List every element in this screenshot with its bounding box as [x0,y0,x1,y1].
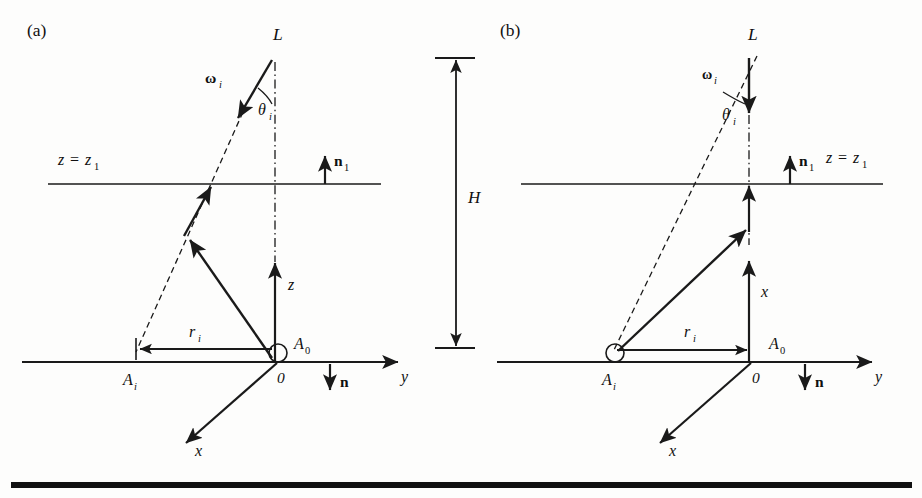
svg-text:n: n [799,152,808,169]
svg-text:=: = [838,149,847,166]
panel-a-plane-normal-label: n 1 [334,152,349,173]
svg-text:i: i [219,79,222,90]
panel-b-radial-label: r i [684,323,696,344]
svg-text:r: r [189,323,196,340]
panel-a-origin-point-label: A 0 [293,335,310,356]
panel-a-source-label: L [272,24,283,44]
svg-text:i: i [733,116,736,127]
panel-b-source-label: L [747,24,758,44]
panel-b-ray-segment [618,230,746,351]
panel-b-incident-direction-label: ω i [702,67,717,86]
svg-text:ω: ω [205,69,216,86]
panel-b-virtual-ray-dashed [613,56,757,352]
panel-b-horizontal-axis-label: y [873,368,883,386]
panel-a-vertical-axis-label: z [287,276,295,293]
svg-text:A: A [601,371,612,388]
svg-text:1: 1 [94,161,99,172]
panel-b-vertical-axis-label: x [760,283,768,300]
svg-text:z: z [825,149,833,166]
panel-b-plane-normal-label: n 1 [799,152,814,173]
panel-a-ray-segment-upper [184,187,211,236]
svg-text:i: i [269,111,272,122]
svg-text:θ: θ [258,101,266,118]
panel-b-surface-normal-label: n [815,373,824,390]
panel-a-depth-axis-label: x [194,442,202,459]
panel-a-label: (a) [27,20,47,40]
svg-text:i: i [714,75,717,86]
panel-a-x-axis [186,363,277,443]
panel-a-origin-label: 0 [277,369,285,386]
svg-text:r: r [684,323,691,340]
panel-a-plane-label: z = z 1 [57,151,99,172]
panel-a-group: (a) L ω i θ i z = z 1 n 1 z r [22,20,409,459]
figure-canvas: (a) L ω i θ i z = z 1 n 1 z r [0,0,922,498]
panel-a-incident-ray-arrow [238,60,272,118]
svg-text:i: i [613,381,616,392]
svg-text:0: 0 [780,345,785,356]
panel-a-radial-label: r i [189,323,201,344]
svg-text:θ: θ [722,106,730,123]
svg-text:i: i [693,333,696,344]
panel-a-ray-segment-lower [190,240,272,358]
svg-text:i: i [134,381,137,392]
figure-root: (a) L ω i θ i z = z 1 n 1 z r [0,0,922,498]
panel-b-image-point-label: A i [601,371,616,392]
height-dimension-group: H [435,58,482,348]
panel-a-angle-label: θ i [258,101,272,122]
panel-a-incident-direction-label: ω i [205,69,222,90]
svg-text:1: 1 [344,162,349,173]
svg-text:A: A [293,335,304,352]
svg-text:0: 0 [305,345,310,356]
svg-text:A: A [122,371,133,388]
svg-text:1: 1 [809,162,814,173]
bottom-rule [11,482,912,488]
svg-text:z: z [852,149,860,166]
panel-a-surface-normal-label: n [340,373,349,390]
svg-text:z: z [57,151,65,168]
svg-text:n: n [334,152,343,169]
panel-b-label: (b) [500,20,521,40]
svg-text:1: 1 [862,159,867,170]
panel-a-origin-marker [269,344,287,362]
panel-b-plane-label: z = z 1 [825,149,867,170]
panel-a-virtual-ray-dashed [136,112,243,352]
panel-b-x-axis [660,363,751,443]
panel-b-group: (b) L ω i θ i z = z 1 n 1 x r [497,20,883,459]
panel-b-depth-axis-label: x [668,442,676,459]
svg-text:z: z [84,151,92,168]
panel-a-horizontal-axis-label: y [399,368,409,386]
svg-text:=: = [70,151,79,168]
svg-text:i: i [198,333,201,344]
height-label: H [467,188,482,207]
panel-a-image-point-label: A i [122,371,137,392]
svg-text:A: A [768,335,779,352]
panel-b-origin-point-label: A 0 [768,335,785,356]
panel-b-origin-label: 0 [752,369,760,386]
svg-text:ω: ω [702,67,712,82]
